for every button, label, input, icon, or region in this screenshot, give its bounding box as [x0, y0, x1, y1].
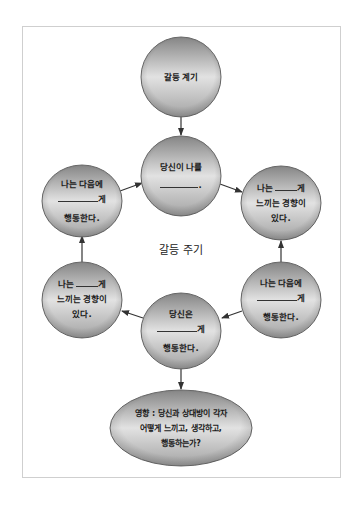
blank-line [160, 178, 198, 188]
blank-line [58, 192, 98, 202]
suffix-text: 게 [297, 183, 305, 193]
node-left-lower: 나는 게 느끼는 경향이 있다. [42, 262, 122, 336]
edge-bottom-center-to-left-lower [122, 311, 143, 318]
node-impact-line1: 영향 : 당신과 상대방이 각자 [135, 406, 226, 421]
node-right-lower-line2: 게 [257, 291, 305, 306]
node-right-lower-line3: 행동한다. [263, 310, 298, 325]
node-bottom-center: 당신은 게 행동한다. [141, 295, 221, 367]
diagram-title: 갈등 주기 [131, 241, 231, 257]
node-left-lower-line3: 있다. [72, 307, 91, 322]
node-impact: 영향 : 당신과 상대방이 각자 어떻게 느끼고, 생각하고, 행동하는가? [112, 392, 250, 464]
node-left-upper: 나는 다음에 게 행동한다. [42, 165, 122, 237]
node-left-upper-line3: 행동한다. [64, 211, 99, 226]
node-right-upper: 나는 게 느끼는 경향이 있다. [241, 166, 321, 240]
suffix-text: 게 [297, 293, 305, 303]
node-center-blank: . [160, 178, 201, 193]
edge-right-lower-to-bottom-center [222, 311, 242, 318]
node-center: 당신이 나를 . [141, 136, 221, 216]
node-bottom-center-line1: 당신은 [169, 307, 193, 322]
blank-line [275, 181, 297, 191]
prefix-text: 나는 [58, 279, 74, 289]
node-center-text: 당신이 나를 [160, 160, 203, 175]
node-impact-line2: 어떻게 느끼고, 생각하고, [140, 421, 222, 436]
suffix-text: 게 [98, 279, 106, 289]
suffix-text: 게 [197, 324, 205, 334]
node-bottom-center-line2: 게 [157, 322, 205, 337]
blank-line [157, 322, 197, 332]
node-trigger-text: 갈등 계기 [164, 70, 199, 85]
node-left-upper-line2: 게 [58, 192, 106, 207]
edge-left-upper-to-center [120, 183, 142, 191]
node-left-upper-line1: 나는 다음에 [61, 177, 104, 192]
node-right-upper-line1: 나는 게 [257, 181, 306, 196]
prefix-text: 나는 [257, 183, 273, 193]
node-right-upper-line3: 있다. [271, 211, 290, 226]
node-impact-line3: 행동하는가? [161, 436, 201, 451]
node-right-lower-line1: 나는 다음에 [260, 276, 303, 291]
suffix-text: 게 [98, 194, 106, 204]
node-right-lower: 나는 다음에 게 행동한다. [241, 264, 321, 336]
node-left-lower-line1: 나는 게 [58, 277, 107, 292]
edge-center-to-right-upper [220, 184, 242, 192]
blank-line [257, 291, 297, 301]
node-trigger: 갈등 계기 [141, 37, 221, 117]
node-right-upper-line2: 느끼는 경향이 [256, 196, 307, 211]
blank-line [76, 277, 98, 287]
node-left-lower-line2: 느끼는 경향이 [57, 292, 108, 307]
node-bottom-center-line3: 행동한다. [163, 341, 198, 356]
